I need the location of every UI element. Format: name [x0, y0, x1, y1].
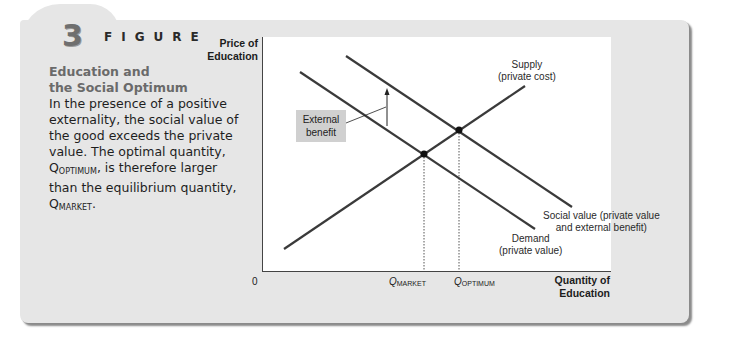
external-benefit-label: External benefit — [296, 110, 346, 142]
optimum-point — [456, 127, 463, 134]
market-equilibrium-point — [421, 151, 428, 158]
y-axis-label: Price of Education — [200, 37, 258, 63]
social-value-label: Social value (private value and external… — [543, 210, 660, 234]
chart-svg — [0, 0, 729, 341]
demand-curve — [300, 72, 535, 229]
external-benefit-leader — [346, 107, 386, 123]
origin-label: 0 — [252, 276, 258, 287]
demand-label: Demand (private value) — [499, 233, 562, 257]
arrowhead-icon — [385, 88, 390, 95]
supply-label: Supply (private cost) — [498, 59, 556, 83]
q-market-label: QMARKET — [389, 276, 426, 287]
x-axis-label: Quantity of Education — [548, 274, 610, 300]
q-optimum-label: QOPTIMUM — [454, 276, 495, 287]
